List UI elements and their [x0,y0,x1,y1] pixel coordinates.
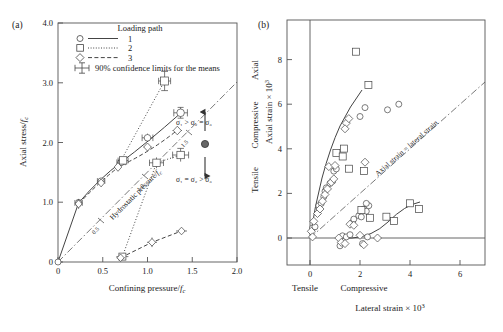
data-point [365,82,372,89]
data-point [340,145,347,152]
data-point [360,168,367,175]
panel-b-ytick-0: 0 [278,233,282,243]
legend-label-3: 3 [128,53,132,63]
data-point [390,218,397,225]
panel-b-ylabel-main: Axial strain × 103 [263,80,274,144]
panel-b-xlabel-main: Lateral strain × 103 [355,302,425,313]
legend-marker-circle [77,36,83,42]
panel-b-xtick-3: 6 [458,269,462,279]
panel-a-ytick-0: 0 [49,257,53,267]
panel-a-ytick-1: 1.0 [42,197,53,207]
panel-b-xtick-0: 0 [308,269,312,279]
panel-a-xlabel: Confining pressure/fc [109,283,186,294]
panel-b-ytick-4: 8 [278,55,282,65]
data-point [415,205,422,212]
data-point [363,200,369,206]
panel-a-ylabel: Axial stress/fc [18,117,29,167]
data-point [407,200,414,207]
panel-a-ytick-2: 2.0 [42,138,53,148]
figure-svg: (a) 0 1.0 2.0 3.0 4.0 [0,0,503,332]
panel-b-ylabel-compressive: Compressive [250,101,260,148]
legend-confidence-label: 90% confidence limits for the means [95,63,220,73]
data-point [118,157,128,164]
panel-a-xtick-3: 1.5 [187,266,198,276]
legend-title: Loading path [117,23,163,33]
figure-background [0,0,503,332]
panel-a-label: (a) [12,20,23,31]
panel-a-xtick-2: 1.0 [142,266,153,276]
panel-b-ylabel-tensile: Tensile [250,167,260,193]
stress-state-bottom-label: σ₁ = σ₂ > σ₃ [176,175,212,184]
data-point [396,101,402,107]
data-point [347,232,353,238]
data-point [365,234,371,240]
panel-b-xtick-1: 2 [358,269,362,279]
panel-a-xtick-0: 0 [56,266,60,276]
data-point [383,213,390,220]
panel-b-xlabel-tensile: Tensile [292,283,318,293]
data-point [352,48,359,55]
data-point [358,214,364,220]
panel-a-ytick-3: 3.0 [42,78,53,88]
panel-a-xtick-4: 2.0 [232,266,243,276]
data-point [362,105,368,111]
figure-container: (a) 0 1.0 2.0 3.0 4.0 [0,0,503,332]
panel-b-ylabel-axial: Axial [250,60,260,80]
data-point [55,259,61,265]
data-point [333,150,340,157]
data-point [339,153,346,160]
legend-marker-square [77,45,84,52]
data-point [358,207,365,214]
panel-a-ytick-4: 4.0 [42,18,53,28]
panel-b-xlabel-compressive: Compressive [341,283,388,293]
panel-a-xtick-1: 0.5 [97,266,108,276]
stress-state-top-label: σ₁ > σ₂ = σ₃ [176,118,212,127]
data-point [357,114,363,120]
data-point [345,165,352,172]
legend-label-2: 2 [128,43,132,53]
data-point [385,107,391,113]
legend-label-1: 1 [128,34,132,44]
data-point [367,214,374,221]
panel-b-ytick-3: 6 [278,99,282,109]
panel-b-label: (b) [258,20,269,31]
panel-b-ytick-1: 2 [278,188,282,198]
